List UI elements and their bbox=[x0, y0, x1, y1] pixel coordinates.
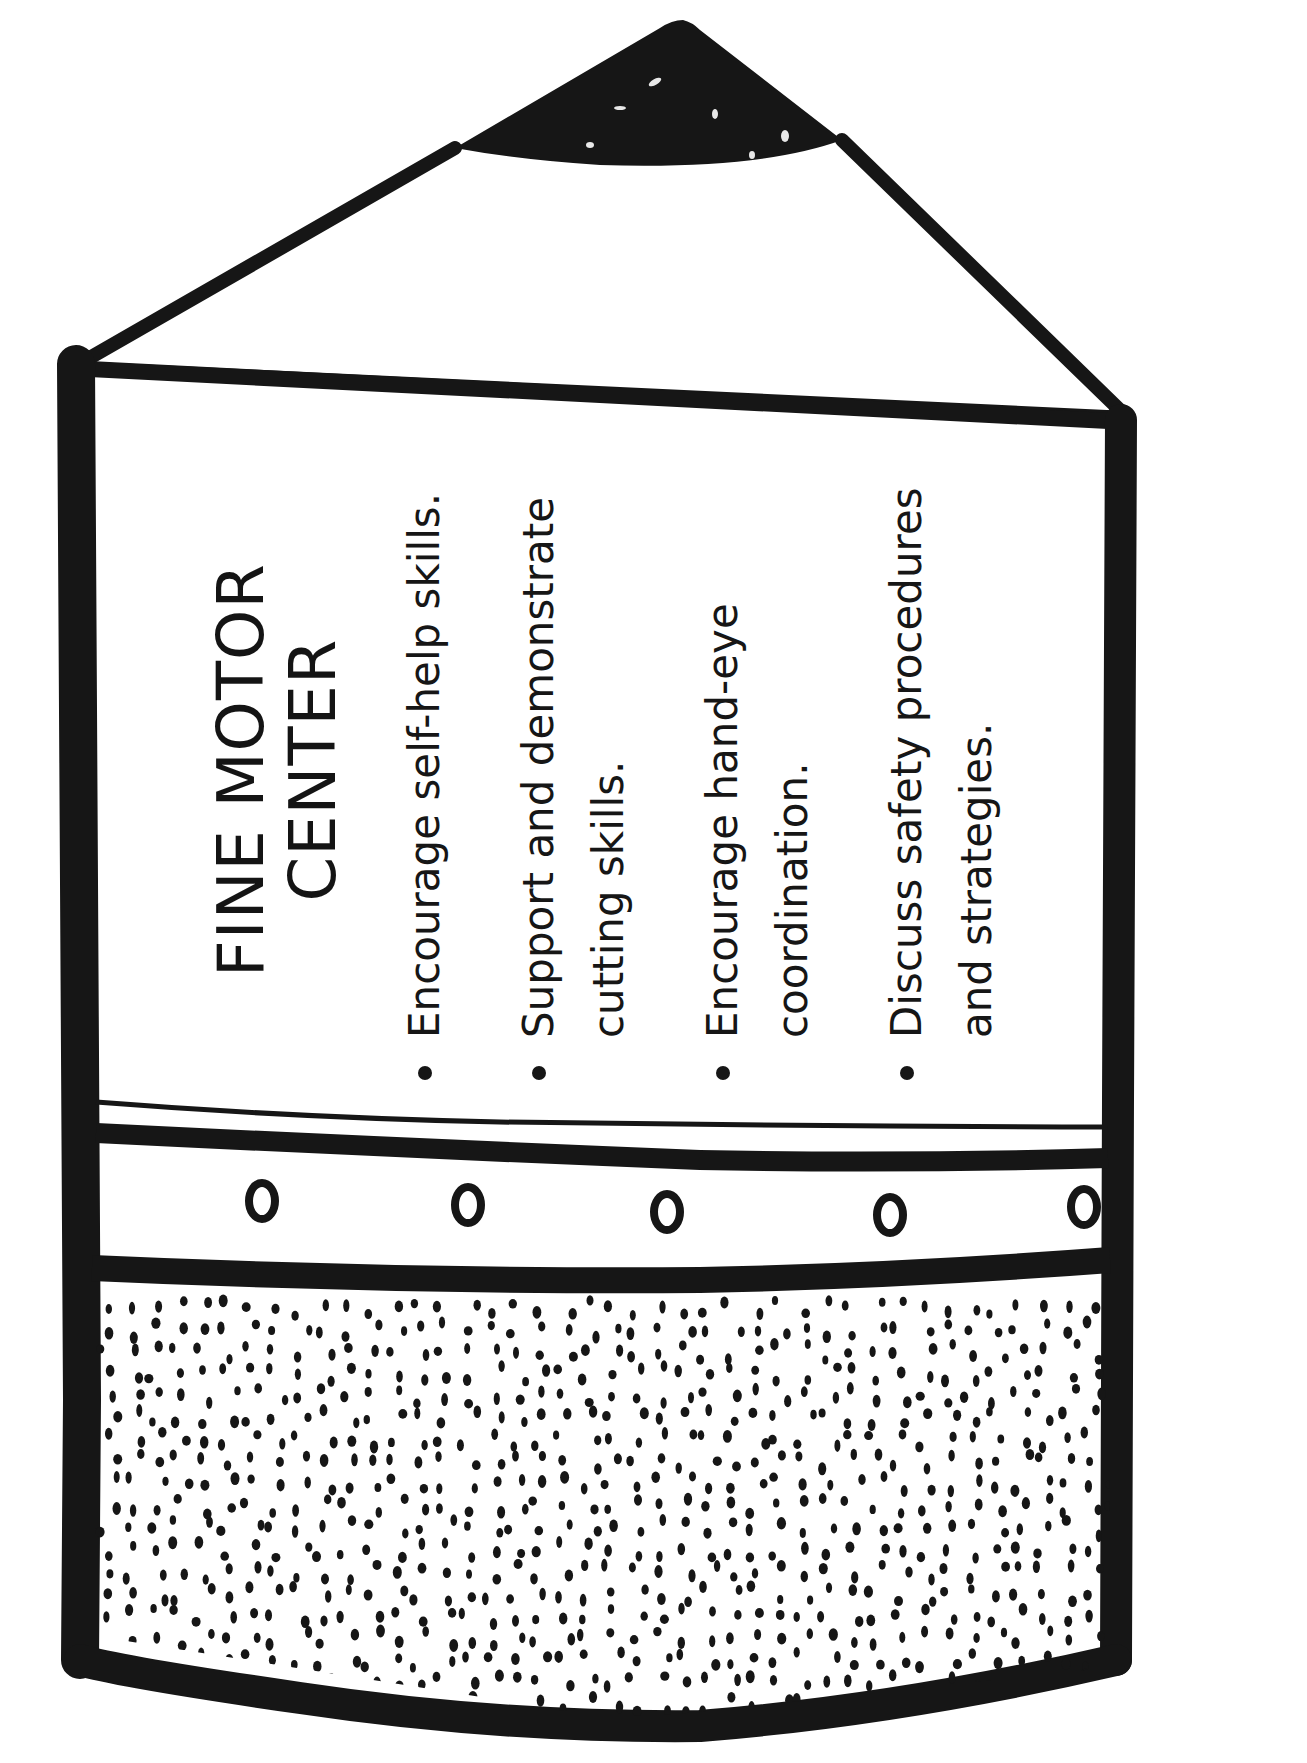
bullet-item: Support and demonstrate cutting skills. bbox=[504, 470, 644, 1090]
bullet-dot-icon bbox=[418, 1066, 432, 1080]
bullet-item: Encourage hand-eye coordination. bbox=[688, 470, 828, 1090]
bullet-dot-icon bbox=[532, 1066, 546, 1080]
pencil-bottom-edge bbox=[80, 1660, 1116, 1726]
bullet-text: Encourage hand-eye bbox=[688, 470, 758, 1038]
bullet-item: Encourage self-help skills. bbox=[390, 470, 460, 1090]
bullet-list: Encourage self-help skills. Support and … bbox=[390, 470, 1090, 1090]
pencil-right-edge bbox=[1116, 420, 1121, 1660]
bullet-text: and strategies. bbox=[942, 470, 1012, 1038]
title-line-1: FINE MOTOR bbox=[205, 460, 277, 1080]
title-block: FINE MOTOR CENTER bbox=[205, 460, 365, 1080]
bullet-text: coordination. bbox=[758, 470, 828, 1038]
bullet-text: Support and demonstrate bbox=[504, 470, 574, 1038]
bullet-text: Encourage self-help skills. bbox=[390, 470, 460, 1038]
bullet-dot-icon bbox=[900, 1066, 914, 1080]
pencil-tip bbox=[455, 20, 842, 166]
bullet-text: Discuss safety procedures bbox=[872, 470, 942, 1038]
title-line-2: CENTER bbox=[277, 460, 349, 1080]
bullet-item: Discuss safety procedures and strategies… bbox=[872, 470, 1012, 1090]
bullet-text: cutting skills. bbox=[574, 470, 644, 1038]
bullet-dot-icon bbox=[716, 1066, 730, 1080]
eraser-stipple bbox=[96, 1294, 1128, 1718]
pencil-left-edge bbox=[76, 364, 82, 1660]
ferrule-circles bbox=[249, 1183, 1097, 1233]
